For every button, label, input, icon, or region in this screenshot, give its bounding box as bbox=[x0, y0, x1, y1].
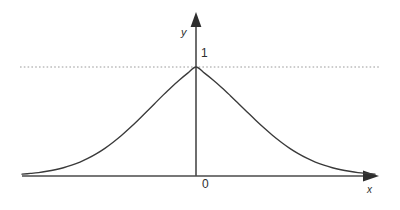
plot-canvas bbox=[0, 0, 400, 210]
x-axis-label: x bbox=[367, 185, 372, 195]
y-axis-label: y bbox=[181, 27, 187, 38]
bell-curve-figure: y x 1 0 bbox=[0, 0, 400, 210]
origin-label-0: 0 bbox=[202, 178, 209, 190]
figure-background bbox=[0, 0, 400, 210]
y-tick-label-1: 1 bbox=[201, 47, 208, 59]
